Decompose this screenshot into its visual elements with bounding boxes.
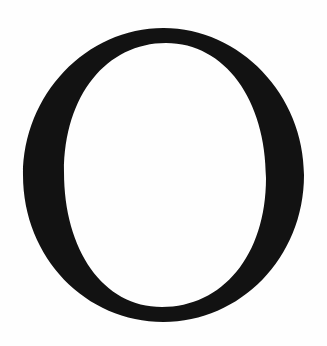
letter-o-shape: [23, 28, 304, 322]
glyph-canvas: O: [0, 0, 327, 346]
letter-o-glyph: [0, 0, 327, 346]
